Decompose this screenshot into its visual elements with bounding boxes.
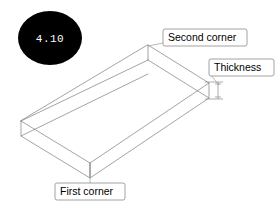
- figure-number-label: 4.10: [36, 33, 64, 45]
- leader-line-second-corner: [148, 43, 163, 46]
- figure-container: 4.10 Second corner Thickness First corne…: [0, 0, 279, 206]
- callout-label-thickness: Thickness: [214, 61, 261, 73]
- slab-rear-edge-left: [21, 60, 148, 121]
- slab-front-left-face: [21, 121, 90, 178]
- slab-front-right-face: [90, 83, 209, 178]
- callout-label-second-corner: Second corner: [168, 31, 237, 43]
- technical-diagram: 4.10 Second corner Thickness First corne…: [0, 0, 279, 206]
- slab-rear-edge-right: [148, 60, 209, 98]
- callout-label-first-corner: First corner: [60, 185, 114, 197]
